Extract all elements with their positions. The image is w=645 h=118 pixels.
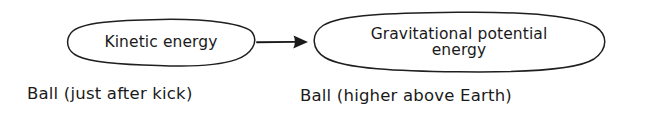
arrow-right-icon <box>256 30 310 54</box>
energy-transfer-diagram: Kinetic energy Gravitational potential e… <box>0 0 645 118</box>
node-kinetic-energy: Kinetic energy <box>66 18 256 66</box>
caption-kinetic-energy: Ball (just after kick) <box>27 84 193 103</box>
node-gravitational-potential-energy-label: Gravitational potential energy <box>311 11 607 73</box>
node-kinetic-energy-label: Kinetic energy <box>66 18 256 66</box>
energy-transfer-arrow <box>256 30 310 54</box>
caption-gravitational-potential-energy: Ball (higher above Earth) <box>300 86 512 105</box>
node-gravitational-potential-energy: Gravitational potential energy <box>311 11 607 73</box>
